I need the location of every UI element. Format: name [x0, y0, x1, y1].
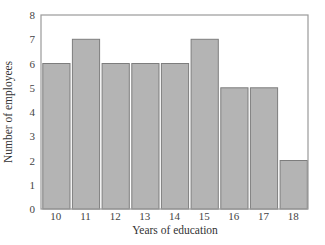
y-tick-label: 4 [30, 106, 36, 118]
x-axis-ticks: 101112131415161718 [50, 210, 299, 222]
x-axis-title: Years of education [132, 224, 218, 236]
x-tick-label: 10 [50, 210, 62, 222]
y-axis-title: Number of employees [2, 60, 15, 163]
y-tick-label: 5 [30, 82, 36, 94]
bar-17 [250, 88, 277, 209]
bar-chart: 012345678 101112131415161718 Years of ed… [0, 0, 325, 245]
bar-15 [191, 39, 218, 209]
x-tick-label: 14 [169, 210, 181, 222]
y-axis-ticks: 012345678 [30, 9, 36, 215]
bars-group [43, 39, 308, 209]
x-tick-label: 16 [228, 210, 240, 222]
y-tick-label: 0 [30, 203, 36, 215]
bar-13 [132, 64, 159, 210]
bar-10 [43, 64, 70, 210]
bar-12 [102, 64, 129, 210]
x-tick-label: 17 [258, 210, 270, 222]
bar-11 [72, 39, 99, 209]
y-tick-label: 8 [30, 9, 36, 21]
y-tick-label: 1 [30, 179, 36, 191]
x-tick-label: 12 [110, 210, 121, 222]
bar-14 [161, 64, 188, 210]
y-tick-label: 3 [30, 130, 36, 142]
x-tick-label: 11 [80, 210, 91, 222]
bar-18 [280, 161, 307, 210]
y-tick-label: 2 [30, 155, 36, 167]
x-tick-label: 15 [199, 210, 211, 222]
bar-16 [221, 88, 248, 209]
y-tick-label: 6 [30, 58, 36, 70]
x-tick-label: 13 [139, 210, 151, 222]
x-tick-label: 18 [288, 210, 300, 222]
y-tick-label: 7 [30, 33, 36, 45]
